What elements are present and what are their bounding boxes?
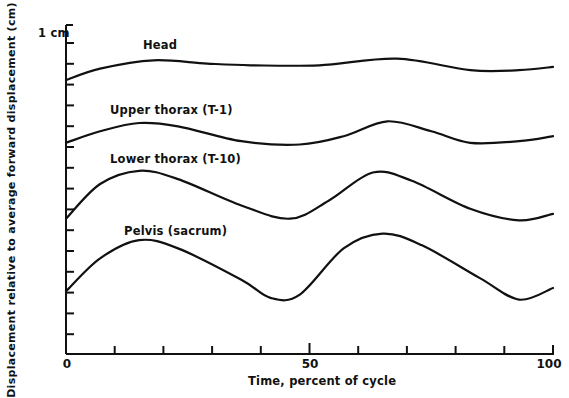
y-axis-title: Displacement relative to average forward… — [5, 2, 18, 398]
curve-pelvis-sacrum — [66, 234, 553, 301]
x-ticks — [115, 343, 505, 354]
x-axis-title: Time, percent of cycle — [248, 374, 396, 388]
series-label-upper-thorax: Upper thorax (T-1) — [110, 103, 233, 117]
series-label-pelvis: Pelvis (sacrum) — [124, 224, 227, 238]
series-label-head: Head — [143, 38, 177, 52]
x-tick-label-0: 0 — [63, 357, 71, 371]
x-tick-label-50: 50 — [302, 357, 319, 371]
curve-head — [66, 59, 553, 80]
curves — [66, 59, 553, 301]
axes — [66, 25, 553, 354]
curve-lower-thorax-t-10 — [66, 171, 553, 221]
series-label-lower-thorax: Lower thorax (T-10) — [110, 152, 241, 166]
curve-upper-thorax-t-1 — [66, 121, 553, 145]
x-tick-label-100: 100 — [536, 357, 561, 371]
scale-label: 1 cm — [38, 26, 70, 40]
